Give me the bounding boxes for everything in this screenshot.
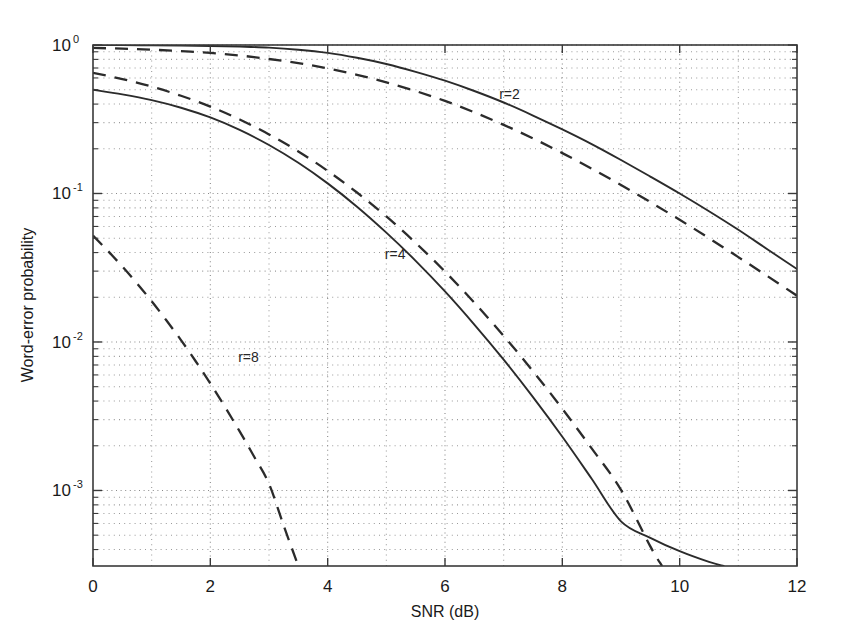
- series-annotation-label: r=4: [385, 246, 406, 262]
- y-tick-exponent: -1: [73, 181, 83, 193]
- y-tick-exponent: -2: [73, 330, 83, 342]
- x-tick-label: 0: [88, 577, 97, 596]
- series-annotation-label: r=8: [238, 349, 259, 365]
- figure-container: 02468101210010-110-210-3 r=2r=4r=8 SNR (…: [0, 0, 841, 641]
- x-tick-label: 10: [670, 577, 689, 596]
- y-tick-exponent: -3: [73, 478, 83, 490]
- y-tick-mantissa: 10: [52, 333, 71, 352]
- x-tick-label: 8: [558, 577, 567, 596]
- chart-background: [0, 0, 841, 641]
- x-tick-label: 12: [788, 577, 807, 596]
- x-tick-label: 4: [323, 577, 332, 596]
- series-annotation-label: r=2: [499, 86, 520, 102]
- y-tick-mantissa: 10: [52, 184, 71, 203]
- x-tick-label: 2: [206, 577, 215, 596]
- x-tick-label: 6: [440, 577, 449, 596]
- x-axis-title: SNR (dB): [411, 603, 479, 620]
- y-axis-title: Word-error probability: [19, 228, 36, 382]
- word-error-probability-chart: 02468101210010-110-210-3 r=2r=4r=8 SNR (…: [0, 0, 841, 641]
- y-tick-exponent: 0: [73, 33, 79, 45]
- y-tick-mantissa: 10: [52, 36, 71, 55]
- y-tick-mantissa: 10: [52, 481, 71, 500]
